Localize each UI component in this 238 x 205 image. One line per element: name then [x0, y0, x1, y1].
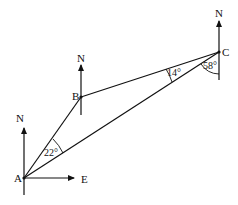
point-b — [79, 95, 82, 98]
point-label-b: B — [72, 90, 79, 102]
side-ac — [24, 52, 219, 178]
bearing-diagram: N N N E A B C 22° 14° 58° — [0, 0, 238, 205]
east-label: E — [81, 173, 88, 185]
angle-label-14: 14° — [167, 67, 181, 78]
point-label-c: C — [222, 46, 229, 58]
side-ab — [24, 97, 81, 178]
point-label-a: A — [14, 172, 22, 184]
angle-label-c: 58° — [203, 60, 217, 71]
north-label-b: N — [77, 52, 85, 64]
point-a — [22, 176, 25, 179]
north-label-c: N — [215, 7, 223, 19]
point-c — [217, 50, 220, 53]
side-bc — [81, 52, 219, 97]
angle-label-a: 22° — [44, 147, 58, 158]
north-label-a: N — [16, 112, 24, 124]
